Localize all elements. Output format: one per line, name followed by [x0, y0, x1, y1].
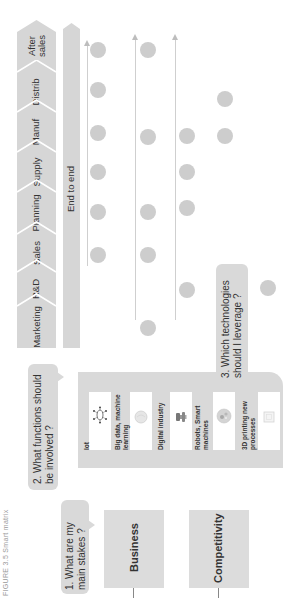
matrix-dot	[90, 125, 106, 141]
globe-icon	[134, 410, 148, 424]
tech-label-robots: Robots, Smart machines	[194, 395, 209, 450]
network-node-icon	[92, 406, 108, 424]
matrix-dot	[179, 128, 195, 144]
stake-business-connector	[133, 588, 134, 598]
function-label: After sales	[27, 31, 47, 61]
matrix-dot	[140, 247, 156, 263]
stake-competitivity-connector	[218, 588, 219, 598]
robot-arm-icon	[175, 410, 187, 424]
matrix-dot	[179, 200, 195, 216]
matrix-dot	[90, 247, 106, 263]
arrow-up-icon	[132, 34, 138, 40]
matrix-dot	[140, 204, 156, 220]
matrix-dot	[140, 320, 156, 336]
matrix-dot	[179, 164, 195, 180]
matrix-dot	[140, 129, 156, 145]
arrow-up-icon	[84, 40, 90, 46]
printer-cube-icon	[263, 411, 275, 423]
stake-competitivity-label: Competitivity	[212, 513, 224, 583]
matrix-dot	[90, 42, 106, 58]
matrix-dot	[260, 280, 276, 296]
gear-cluster-icon	[216, 408, 232, 424]
arrow-up-icon	[172, 34, 178, 40]
chevron-separators	[17, 60, 56, 320]
tech-label-bigdata: Big data, machine learning	[114, 388, 129, 450]
matrix-dot	[90, 204, 106, 220]
tech-label-digital: Digital industry	[157, 403, 165, 450]
tech-label-3dprint: 3D printing new processes	[241, 388, 256, 450]
figure-caption: FIGURE 3.5 Smart matrix	[2, 509, 9, 596]
tech-label-iot: Iot	[83, 442, 91, 450]
matrix-dot	[90, 164, 106, 180]
matrix-dot	[140, 42, 156, 58]
question-3-text: 3. Which technologies should I leverage …	[220, 264, 244, 378]
matrix-dot	[217, 91, 233, 107]
question-2-text: 2. What functions should be involved ?	[32, 366, 56, 484]
matrix-dot	[217, 128, 233, 144]
question-1-text: 1. What are my main stakes ?	[64, 504, 88, 590]
end-to-end-label: End to end	[65, 166, 76, 212]
stake-business-label: Business	[128, 523, 140, 572]
matrix-dot	[90, 82, 106, 98]
matrix-dot	[179, 282, 195, 298]
